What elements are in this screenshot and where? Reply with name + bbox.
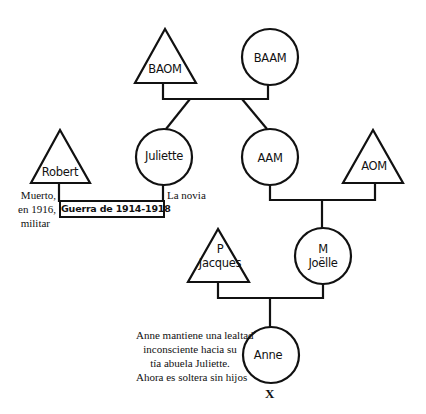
robert-note-line: Muerto,: [4, 188, 56, 202]
baom-label: BAOM: [148, 62, 181, 76]
robert-note-line: militar: [4, 216, 56, 230]
robert-note: Muerto, en 1916, militar: [4, 188, 56, 230]
aam-label: AAM: [257, 151, 282, 165]
baom-baam-couple-line: [163, 83, 268, 99]
juliette-label: Juliette: [145, 149, 183, 163]
aom-triangle: [343, 130, 403, 183]
anne-note-line: Anne mantiene una lealtad: [136, 328, 244, 342]
robert-label: Robert: [42, 165, 78, 179]
jacques-joelle-couple-line: [218, 282, 323, 298]
genogram-diagram: BAOM BAAM Robert Juliette AAM AOM P Jacq…: [0, 0, 426, 414]
anne-x-marker: X: [265, 386, 274, 402]
anne-note-line: Ahora es soltera sin hijos: [136, 370, 244, 384]
juliette-note: La novia: [167, 188, 206, 202]
joelle-label: M Joëlle: [308, 242, 337, 270]
anne-note-line: inconsciente hacia su: [136, 342, 244, 356]
joelle-label-line2: Joëlle: [308, 256, 337, 270]
jacques-label: P Jacques: [199, 242, 241, 270]
robert-juliette-line: [59, 183, 163, 201]
anne-note: Anne mantiene una lealtad inconsciente h…: [136, 328, 244, 384]
line-to-juliette: [166, 99, 190, 129]
anne-note-line: tía abuela Juliette.: [136, 356, 244, 370]
jacques-label-line2: Jacques: [199, 256, 241, 270]
baam-label: BAAM: [254, 51, 287, 65]
robert-note-line: en 1916,: [4, 202, 56, 216]
war-label-box: Guerra de 1914-1918: [59, 200, 165, 218]
aam-aom-couple-line: [270, 183, 375, 200]
aom-label: AOM: [361, 159, 387, 173]
line-to-aam: [242, 99, 267, 129]
joelle-label-line1: M: [308, 242, 337, 256]
jacques-label-line1: P: [199, 242, 241, 256]
anne-label: Anne: [254, 348, 282, 362]
